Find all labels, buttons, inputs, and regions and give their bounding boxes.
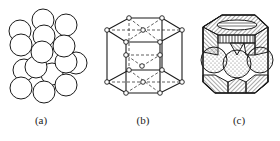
caption-c: (c) [233, 114, 245, 126]
panel-c-sectioned-cell [201, 15, 273, 93]
caption-a: (a) [35, 114, 47, 126]
panel-b-hcp-cell [105, 16, 185, 96]
panel-a-spheres [9, 9, 87, 103]
caption-b: (b) [137, 114, 150, 126]
